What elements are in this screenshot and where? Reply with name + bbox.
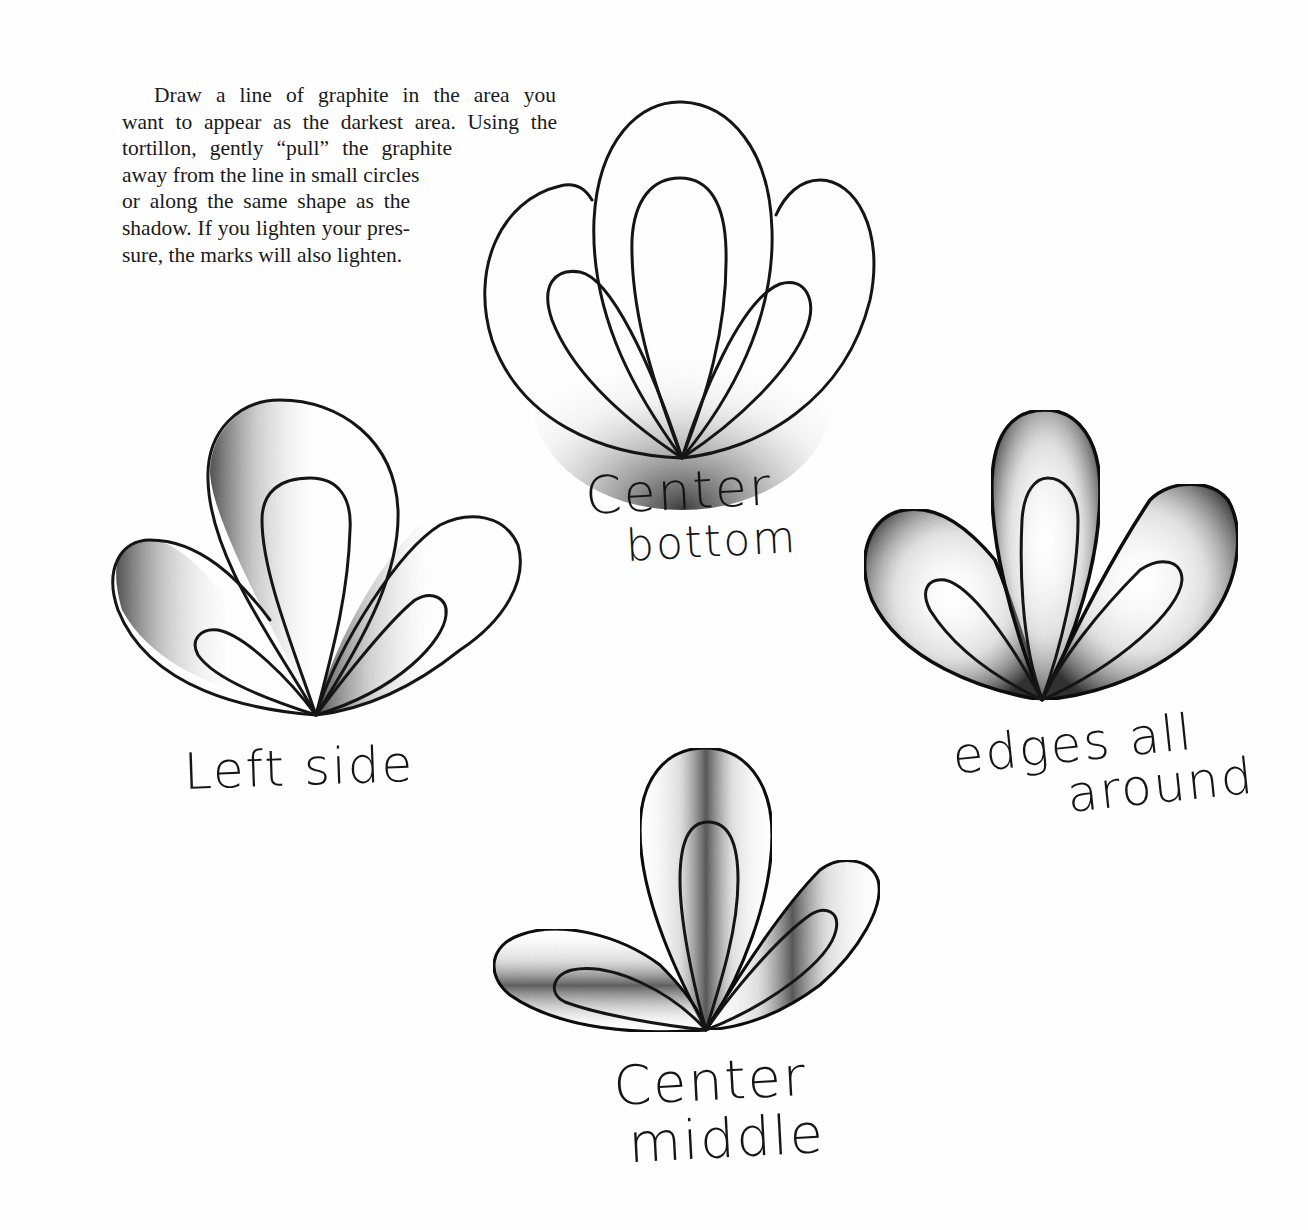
- flower-center-middle: [494, 748, 879, 1032]
- flower-center-bottom: [485, 102, 874, 510]
- label-center-bottom: Center bottom: [584, 459, 798, 574]
- label-left-side: Left side: [183, 736, 415, 800]
- label-line: middle: [615, 1105, 826, 1174]
- flower-edges-all-around: [865, 410, 1238, 700]
- book-page: Draw a line of graphite in the area you …: [0, 0, 1308, 1230]
- label-center-middle: Center middle: [612, 1047, 826, 1174]
- flower-left-side: [113, 400, 520, 715]
- label-line: Left side: [183, 736, 415, 800]
- flower-illustrations: [0, 0, 1308, 1230]
